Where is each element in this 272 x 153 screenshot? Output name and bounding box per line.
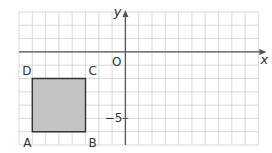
origin-label: O — [112, 55, 121, 69]
x-axis-label: x — [260, 52, 269, 67]
coordinate-grid: y x O −5 ABCD — [0, 0, 272, 153]
square-abcd — [32, 79, 85, 132]
vertex-label-c: C — [89, 64, 97, 78]
tick-label-minus-5: −5 — [105, 111, 123, 125]
vertex-label-b: B — [89, 136, 97, 150]
y-axis-label: y — [113, 4, 122, 19]
vertex-label-d: D — [22, 64, 31, 78]
vertex-label-a: A — [23, 136, 32, 150]
